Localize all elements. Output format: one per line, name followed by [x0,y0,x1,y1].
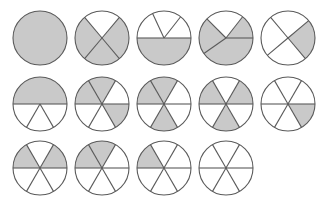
fraction-circle [10,8,70,68]
fraction-circle [258,8,318,68]
fraction-circle [10,138,70,198]
fraction-circle [72,74,132,134]
shaded-sector [13,77,67,104]
fraction-circles-figure [0,0,324,205]
fraction-circle [10,74,70,134]
fraction-circle [196,74,256,134]
fraction-circle [72,138,132,198]
shaded-sector [137,38,191,65]
fraction-circle [72,8,132,68]
fraction-circle [196,8,256,68]
fraction-circle [196,138,256,198]
fraction-circle [134,8,194,68]
fraction-circle [134,74,194,134]
fraction-circle [258,74,318,134]
fraction-circle [134,138,194,198]
circle-outline [13,11,67,65]
